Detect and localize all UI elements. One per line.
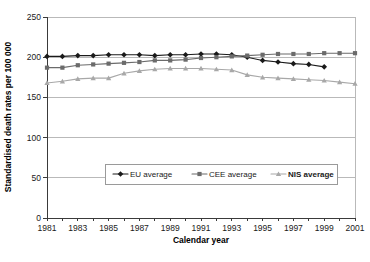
marker-square	[197, 172, 201, 176]
y-axis-ticks: 050100150200250	[27, 12, 47, 223]
x-tick-label: 1991	[192, 223, 211, 233]
marker-diamond	[44, 54, 50, 60]
legend-label: CEE average	[209, 170, 257, 179]
marker-square	[184, 58, 188, 62]
x-tick-label: 1999	[315, 223, 334, 233]
plot-frame	[47, 17, 355, 218]
legend-label: EU average	[130, 170, 173, 179]
marker-square	[276, 52, 280, 56]
y-tick-label: 200	[27, 52, 41, 62]
marker-square	[91, 62, 95, 66]
marker-square	[245, 53, 249, 57]
marker-diamond	[291, 61, 297, 67]
y-tick-label: 100	[27, 133, 41, 143]
marker-square	[45, 66, 49, 70]
gridlines	[47, 17, 355, 178]
marker-square	[107, 62, 111, 66]
data-series	[44, 51, 357, 86]
marker-square	[60, 66, 64, 70]
marker-diamond	[275, 59, 281, 65]
marker-square	[122, 61, 126, 65]
x-tick-label: 1981	[38, 223, 57, 233]
x-tick-label: 1989	[161, 223, 180, 233]
marker-square	[261, 53, 265, 57]
marker-diamond	[306, 62, 312, 68]
line-chart: 050100150200250 198119831985198719891991…	[0, 0, 370, 262]
x-axis-title: Calendar year	[173, 235, 230, 245]
x-axis-ticks: 1981198319851987198919911993199519971999…	[38, 218, 365, 233]
y-tick-label: 150	[27, 92, 41, 102]
marker-square	[199, 56, 203, 60]
legend-label: NIS average	[288, 170, 334, 179]
y-tick-label: 0	[36, 213, 41, 223]
chart-figure: 050100150200250 198119831985198719891991…	[0, 0, 370, 262]
marker-square	[214, 55, 218, 59]
marker-diamond	[260, 58, 266, 64]
marker-square	[230, 54, 234, 58]
y-axis-title: Standardised death rates per 100 000	[3, 42, 13, 193]
x-tick-label: 1983	[68, 223, 87, 233]
x-tick-label: 1997	[284, 223, 303, 233]
x-tick-label: 1985	[99, 223, 118, 233]
marker-square	[353, 51, 357, 55]
marker-square	[307, 52, 311, 56]
marker-square	[338, 51, 342, 55]
x-tick-label: 2001	[346, 223, 365, 233]
y-tick-label: 50	[32, 173, 42, 183]
series-nis-average	[44, 66, 357, 86]
x-tick-label: 1987	[130, 223, 149, 233]
marker-square	[76, 63, 80, 67]
marker-square	[322, 51, 326, 55]
y-tick-label: 250	[27, 12, 41, 22]
marker-square	[291, 52, 295, 56]
x-tick-label: 1993	[222, 223, 241, 233]
marker-square	[137, 60, 141, 64]
marker-diamond	[321, 64, 327, 70]
x-tick-label: 1995	[253, 223, 272, 233]
marker-square	[153, 58, 157, 62]
marker-diamond	[60, 54, 66, 60]
chart-legend: EU averageCEE averageNIS average	[105, 164, 337, 184]
marker-square	[168, 58, 172, 62]
